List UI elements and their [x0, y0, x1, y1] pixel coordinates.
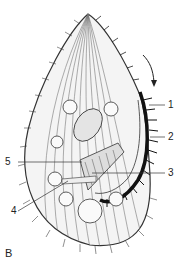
label-4: 4 [11, 206, 17, 216]
label-2: 2 [168, 132, 174, 142]
label-5: 5 [5, 157, 11, 167]
panel-label: B [5, 248, 12, 258]
label-1: 1 [168, 100, 174, 110]
label-3: 3 [168, 168, 174, 178]
ciliate-diagram [0, 0, 185, 272]
rotation-direction-arrow [143, 55, 154, 82]
